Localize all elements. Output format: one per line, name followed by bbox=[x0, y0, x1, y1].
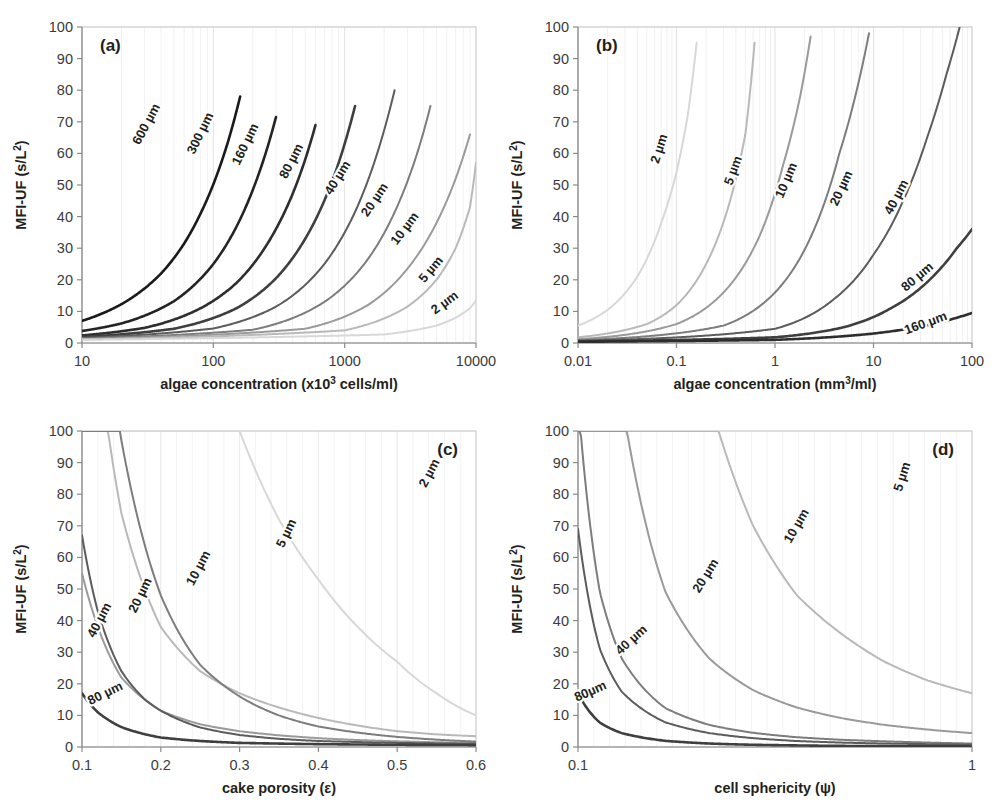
plot-a: 010203040506070809010010100100010000MFI-… bbox=[0, 0, 496, 402]
y-tick-label: 90 bbox=[553, 455, 569, 471]
y-axis-d: 0102030405060708090100 bbox=[545, 423, 578, 755]
curve-5um bbox=[578, 431, 972, 693]
chart-panel-d: 01020304050607080901000.11MFI-UF (s/L2)c… bbox=[496, 402, 992, 804]
y-axis-b: 0102030405060708090100 bbox=[545, 19, 578, 351]
y-tick-label: 60 bbox=[57, 145, 73, 161]
plot-c: 01020304050607080901000.10.20.30.40.50.6… bbox=[0, 402, 496, 804]
x-tick-label: 0.5 bbox=[387, 757, 407, 773]
y-tick-label: 20 bbox=[553, 272, 569, 288]
x-tick-label: 100 bbox=[201, 353, 225, 369]
y-tick-label: 70 bbox=[553, 114, 569, 130]
y-tick-label: 0 bbox=[65, 739, 73, 755]
y-tick-label: 90 bbox=[57, 51, 73, 67]
panel-tag-a: (a) bbox=[100, 36, 121, 55]
y-tick-label: 0 bbox=[65, 335, 73, 351]
x-axis-b: 0.010.1110100 bbox=[564, 343, 984, 369]
x-axis-title: algae concentration (mm3/ml) bbox=[674, 375, 877, 393]
y-tick-label: 100 bbox=[545, 19, 569, 35]
y-tick-label: 80 bbox=[57, 82, 73, 98]
y-tick-label: 0 bbox=[561, 739, 569, 755]
y-axis-a: 0102030405060708090100 bbox=[49, 19, 82, 351]
chart-panel-b: 01020304050607080901000.010.1110100MFI-U… bbox=[496, 0, 992, 402]
x-tick-label: 0.1 bbox=[666, 353, 686, 369]
y-tick-label: 0 bbox=[561, 335, 569, 351]
y-tick-label: 50 bbox=[57, 177, 73, 193]
y-tick-label: 70 bbox=[553, 518, 569, 534]
curve-5um bbox=[82, 163, 476, 340]
x-tick-label: 0.01 bbox=[564, 353, 592, 369]
panel-tag-b: (b) bbox=[596, 36, 618, 55]
curve-label: 80µm bbox=[572, 677, 609, 704]
x-tick-label: 0.4 bbox=[308, 757, 328, 773]
curve-80um bbox=[82, 693, 476, 745]
y-tick-label: 20 bbox=[553, 676, 569, 692]
y-axis-title: MFI-UF (s/L2) bbox=[12, 140, 30, 230]
curve-label: 40 µm bbox=[881, 177, 912, 217]
curve-label: 10 µm bbox=[183, 548, 214, 588]
curve-5um bbox=[578, 43, 755, 338]
y-tick-label: 40 bbox=[553, 209, 569, 225]
y-axis-title: MFI-UF (s/L2) bbox=[508, 140, 526, 230]
curve-label: 160 µm bbox=[228, 121, 261, 167]
x-tick-label: 10 bbox=[865, 353, 881, 369]
curve-labels-a: 600 µm600 µm300 µm300 µm160 µm160 µm80 µ… bbox=[129, 101, 461, 317]
x-tick-label: 0.1 bbox=[568, 757, 588, 773]
curve-2um bbox=[82, 431, 476, 715]
x-axis-title: cell sphericity (ψ) bbox=[714, 780, 835, 796]
x-tick-label: 0.3 bbox=[230, 757, 250, 773]
curve-label: 5 µm bbox=[721, 154, 745, 187]
x-axis-c: 0.10.20.30.40.50.6 bbox=[72, 747, 486, 773]
x-axis-d: 0.11 bbox=[568, 747, 976, 773]
chart-panel-c: 01020304050607080901000.10.20.30.40.50.6… bbox=[0, 402, 496, 804]
curve-label: 20 µm bbox=[358, 180, 391, 219]
x-axis-title: cake porosity (ε) bbox=[222, 780, 336, 796]
y-tick-label: 40 bbox=[57, 613, 73, 629]
y-tick-label: 80 bbox=[553, 82, 569, 98]
chart-panel-a: 010203040506070809010010100100010000MFI-… bbox=[0, 0, 496, 402]
curves-d bbox=[578, 431, 972, 746]
x-tick-label: 0.6 bbox=[466, 757, 486, 773]
y-axis-title: MFI-UF (s/L2) bbox=[508, 544, 526, 634]
y-tick-label: 50 bbox=[553, 177, 569, 193]
curve-label: 600 µm bbox=[129, 101, 163, 147]
curve-20um bbox=[578, 431, 972, 744]
curve-label: 20 µm bbox=[689, 556, 721, 595]
curve-labels-d: 5 µm5 µm10 µm10 µm20 µm20 µm40 µm40 µm80… bbox=[572, 460, 914, 704]
y-tick-label: 20 bbox=[57, 676, 73, 692]
y-tick-label: 100 bbox=[545, 423, 569, 439]
curve-label: 40 µm bbox=[321, 158, 353, 197]
y-tick-label: 60 bbox=[57, 549, 73, 565]
y-tick-label: 70 bbox=[57, 114, 73, 130]
y-tick-label: 30 bbox=[553, 240, 569, 256]
curve-labels-c: 2 µm2 µm5 µm5 µm10 µm10 µm20 µm20 µm40 µ… bbox=[84, 456, 443, 708]
panel-tag-d: (d) bbox=[932, 440, 954, 459]
plot-b: 01020304050607080901000.010.1110100MFI-U… bbox=[496, 0, 992, 402]
curve-label: 160 µm bbox=[902, 308, 949, 337]
x-tick-label: 0.2 bbox=[151, 757, 171, 773]
y-tick-label: 30 bbox=[553, 644, 569, 660]
y-tick-label: 30 bbox=[57, 644, 73, 660]
curve-label: 300 µm bbox=[183, 110, 216, 156]
curve-label: 40 µm bbox=[612, 622, 650, 658]
x-axis-a: 10100100010000 bbox=[74, 343, 496, 369]
y-axis-c: 0102030405060708090100 bbox=[49, 423, 82, 755]
y-tick-label: 70 bbox=[57, 518, 73, 534]
x-tick-label: 100 bbox=[960, 353, 984, 369]
x-axis-title: algae concentration (x103 cells/ml) bbox=[160, 375, 398, 393]
y-tick-label: 40 bbox=[553, 613, 569, 629]
y-tick-label: 10 bbox=[553, 303, 569, 319]
x-tick-label: 10 bbox=[74, 353, 90, 369]
curve-80um bbox=[578, 693, 972, 746]
curve-label: 10 µm bbox=[780, 506, 812, 546]
curve-label: 80 µm bbox=[276, 141, 306, 181]
plot-d: 01020304050607080901000.11MFI-UF (s/L2)c… bbox=[496, 402, 992, 804]
curve-label: 80 µm bbox=[898, 259, 936, 294]
y-tick-label: 60 bbox=[553, 145, 569, 161]
y-tick-label: 50 bbox=[553, 581, 569, 597]
curve-label: 10 µm bbox=[772, 160, 800, 200]
axis-frame-a bbox=[82, 27, 476, 343]
y-tick-label: 90 bbox=[553, 51, 569, 67]
y-axis-title: MFI-UF (s/L2) bbox=[12, 544, 30, 634]
x-tick-label: 10000 bbox=[456, 353, 496, 369]
curve-label: 80 µm bbox=[85, 678, 125, 708]
